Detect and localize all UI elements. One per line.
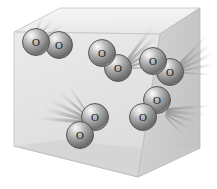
atom-o: O (140, 48, 167, 75)
atom-o: O (130, 104, 157, 131)
atom-o: O (67, 122, 94, 149)
illustration-canvas: O O O O (0, 0, 217, 189)
atom-o: O (23, 29, 50, 56)
cube-gas-illustration: O O O O (0, 0, 217, 189)
atom-o: O (89, 40, 116, 67)
